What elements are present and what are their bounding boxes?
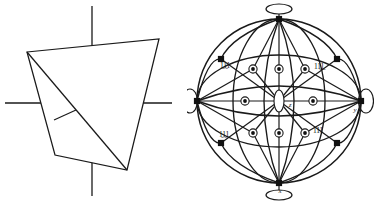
- filled-square-pole-west: [194, 98, 200, 104]
- filled-square-pole-north: [276, 16, 282, 22]
- circled-dot-pole-ul: [249, 65, 257, 73]
- miller-label-lower-left: 1̱1̱1: [219, 130, 230, 139]
- center-lens-symbol: [274, 90, 284, 112]
- circled-dot-pole-n-inner: [275, 65, 283, 73]
- stereogram-svg: 1̱1̱1 11̱1̱ 1̱1̱1 111 y x z: [187, 0, 374, 206]
- spoke-n-to-ul: [253, 19, 279, 69]
- circled-dot-pole-e-inner: [309, 97, 317, 105]
- miller-label-upper-right: 11̱1̱: [314, 62, 326, 71]
- filled-square-pole-south: [276, 180, 282, 186]
- circled-dot-pole-ll: [249, 129, 257, 137]
- spoke-s-to-lr: [279, 133, 305, 183]
- circled-dot-pole-lr: [301, 129, 309, 137]
- miller-label-upper-left: 1̱1̱1: [220, 61, 231, 70]
- filled-square-pole-east: [358, 98, 364, 104]
- filled-square-pole-sw: [218, 140, 224, 146]
- miller-label-lower-right: 111: [313, 126, 324, 135]
- axis-label-y: y: [352, 106, 357, 114]
- spoke-s-to-ll: [253, 133, 279, 183]
- spoke-n-to-ur: [279, 19, 305, 69]
- circled-dot-pole-ur: [301, 65, 309, 73]
- tetrahedron-svg: [0, 0, 187, 206]
- tetrahedron-panel: [0, 0, 187, 206]
- stereogram-panel: 1̱1̱1 11̱1̱ 1̱1̱1 111 y x z: [187, 0, 374, 206]
- figure-container: 1̱1̱1 11̱1̱ 1̱1̱1 111 y x z: [0, 0, 374, 206]
- axis-label-z: z: [288, 101, 292, 109]
- filled-square-pole-ne: [334, 56, 340, 62]
- filled-square-pole-se: [334, 140, 340, 146]
- circled-dot-pole-s-inner: [275, 129, 283, 137]
- two-fold-axis-lens-north: [266, 4, 292, 14]
- tetrahedron-face-fill: [27, 39, 159, 170]
- circled-dot-pole-w-inner: [241, 97, 249, 105]
